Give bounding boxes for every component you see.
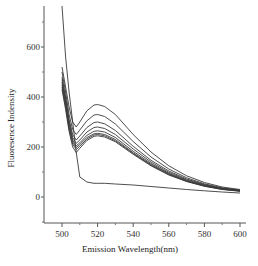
x-tick-label: 560: [162, 229, 176, 239]
x-tick-label: 520: [91, 229, 105, 239]
x-axis-title: Emission Wavelength(nm): [82, 244, 178, 254]
x-tick-label: 580: [198, 229, 212, 239]
x-tick-label: 540: [126, 229, 140, 239]
y-ticks: 0200400600: [27, 22, 45, 222]
y-tick-label: 400: [27, 92, 41, 102]
series-line-5: [62, 80, 240, 191]
y-tick-label: 600: [27, 42, 41, 52]
fluorescence-chart: 0200400600 500520540560580600 Emission W…: [0, 0, 258, 266]
x-ticks: 500520540560580600: [55, 223, 247, 239]
y-tick-label: 0: [36, 192, 41, 202]
series-line-9: [62, 90, 240, 192]
y-axis-title: Fluoresence Indensity: [6, 88, 16, 168]
series-line-2: [62, 67, 240, 190]
x-tick-label: 600: [233, 229, 247, 239]
y-tick-label: 200: [27, 142, 41, 152]
x-tick-label: 500: [55, 229, 69, 239]
plot-lines: [62, 6, 240, 193]
series-line-4: [62, 77, 240, 190]
